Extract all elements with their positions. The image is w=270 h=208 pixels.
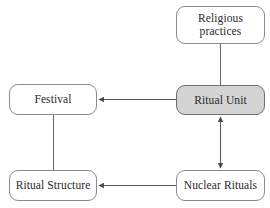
diagram-canvas: Religious practices Ritual Unit Festival… — [0, 0, 270, 208]
node-ritual-unit-label: Ritual Unit — [190, 94, 251, 107]
node-nuclear-rituals-label: Nuclear Rituals — [180, 179, 261, 192]
node-ritual-unit[interactable]: Ritual Unit — [176, 85, 265, 115]
node-religious-practices[interactable]: Religious practices — [176, 6, 265, 44]
node-festival-label: Festival — [30, 93, 75, 106]
node-nuclear-rituals[interactable]: Nuclear Rituals — [176, 170, 265, 201]
node-ritual-structure[interactable]: Ritual Structure — [9, 170, 97, 201]
node-festival[interactable]: Festival — [9, 84, 97, 115]
node-ritual-structure-label: Ritual Structure — [12, 179, 95, 192]
node-religious-practices-label: Religious practices — [194, 12, 247, 38]
